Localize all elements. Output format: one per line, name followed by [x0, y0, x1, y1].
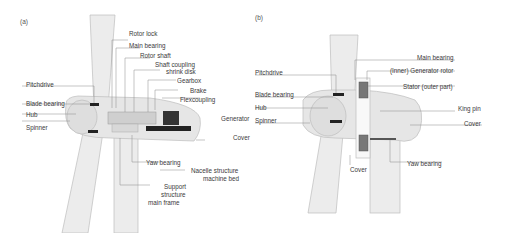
- label-yaw-bearing-a: Yaw bearing: [146, 159, 181, 166]
- panel-b-tag: (b): [255, 14, 263, 21]
- label-shaft-coupling-1: Shaft coupling: [155, 61, 195, 68]
- panel-b-drawing: [303, 35, 422, 213]
- label-king-pin: King pin: [458, 105, 481, 112]
- label-main-bearing-b: Main bearing: [417, 54, 453, 61]
- label-cover-a: Cover: [233, 134, 250, 141]
- label-generator-rotor: (Inner) Generator rotor: [390, 67, 453, 74]
- label-spinner-b: Spinner: [255, 117, 277, 124]
- label-brake: Brake: [190, 87, 206, 94]
- label-pitchdrive-a: Pitchdrive: [26, 81, 54, 88]
- panel-a-tag: (a): [20, 18, 28, 25]
- label-pitchdrive-b: Pitchdrive: [255, 69, 283, 76]
- label-stator: Stator (outer part): [403, 83, 453, 90]
- label-blade-bearing-a: Blade bearing: [26, 100, 65, 107]
- label-yaw-bearing-b: Yaw bearing: [407, 160, 442, 167]
- label-main-bearing-a: Main bearing: [129, 42, 165, 49]
- label-generator: Generator: [221, 115, 249, 122]
- label-blade-bearing-b: Blade bearing: [255, 91, 294, 98]
- label-support-2: structure: [161, 191, 186, 198]
- label-rotor-lock: Rotor lock: [129, 30, 157, 37]
- label-cover-b-right: Cover: [464, 120, 481, 127]
- label-nacelle-2: machine bed: [203, 175, 239, 182]
- label-nacelle-1: Nacelle structure: [191, 167, 238, 174]
- wind-turbine-diagram: [0, 0, 506, 233]
- label-support-1: Support: [164, 183, 186, 190]
- label-rotor-shaft: Rotor shaft: [140, 52, 171, 59]
- label-hub-b: Hub: [255, 104, 267, 111]
- label-gearbox: Gearbox: [177, 77, 201, 84]
- label-hub-a: Hub: [26, 111, 38, 118]
- label-flexcoupling: Flexcoupling: [180, 96, 215, 103]
- label-cover-b-bottom: Cover: [350, 166, 367, 173]
- label-support-3: main frame: [148, 199, 180, 206]
- label-shaft-coupling-2: shrink disk: [166, 68, 196, 75]
- label-spinner-a: Spinner: [26, 124, 48, 131]
